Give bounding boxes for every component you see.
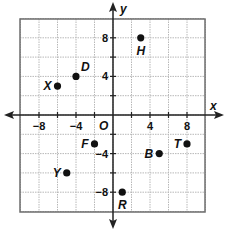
x-tick-label: −4 bbox=[70, 120, 83, 132]
axes bbox=[4, 2, 224, 229]
origin-label: O bbox=[99, 119, 109, 133]
point-marker bbox=[156, 150, 163, 157]
point-d: D bbox=[72, 60, 90, 80]
y-tick-label: 4 bbox=[102, 70, 109, 82]
point-label: R bbox=[118, 198, 127, 212]
point-marker bbox=[183, 140, 190, 147]
point-marker bbox=[137, 34, 144, 41]
point-r: R bbox=[118, 189, 127, 213]
point-x: X bbox=[42, 79, 61, 93]
y-tick-label: 8 bbox=[102, 32, 108, 44]
point-label: F bbox=[81, 137, 89, 151]
point-marker bbox=[72, 73, 79, 80]
point-label: B bbox=[145, 147, 154, 161]
y-axis-label: y bbox=[119, 2, 128, 16]
point-label: X bbox=[42, 79, 52, 93]
x-axis-label: x bbox=[209, 99, 218, 113]
point-marker bbox=[119, 189, 126, 196]
point-marker bbox=[54, 82, 61, 89]
point-label: H bbox=[136, 44, 145, 58]
point-label: T bbox=[174, 137, 183, 151]
coordinate-plane: −8−44884−4−8 XDHFYBTR x y O bbox=[0, 0, 227, 230]
y-tick-label: −4 bbox=[95, 148, 108, 160]
x-tick-label: 4 bbox=[147, 120, 154, 132]
point-marker bbox=[63, 169, 70, 176]
point-y: Y bbox=[53, 166, 71, 180]
x-tick-label: 8 bbox=[184, 120, 190, 132]
point-marker bbox=[91, 140, 98, 147]
point-t: T bbox=[174, 137, 191, 151]
point-label: D bbox=[81, 60, 90, 74]
x-tick-label: −8 bbox=[33, 120, 46, 132]
y-tick-label: −8 bbox=[95, 186, 108, 198]
point-h: H bbox=[136, 34, 145, 58]
point-label: Y bbox=[53, 166, 62, 180]
